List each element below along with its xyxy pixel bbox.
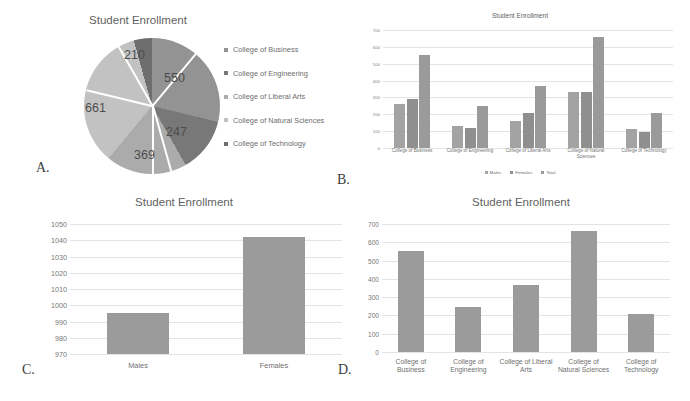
y-axis-tick-label: 1000 [51,301,67,310]
gridline [70,224,342,225]
y-axis-tick-label: 1050 [51,220,67,229]
panel-d-bar-chart: Student Enrollment 010020030040050060070… [352,196,690,392]
x-axis-tick-label: College ofTechnology [612,352,670,375]
bar-females [523,113,534,148]
x-axis-tick-label: College of Engineering [441,148,499,154]
y-axis-tick-label: 600 [373,44,380,49]
bar-college-3 [571,231,597,352]
plot-area-d: 0100200300400500600700College ofBusiness… [382,224,670,352]
pie-value-business: 550 [164,71,185,85]
y-axis-tick-label: 400 [368,275,379,282]
bar-females [465,128,476,148]
panel-letter-d: D. [338,362,352,378]
y-axis-tick-label: 500 [368,257,379,264]
x-axis-tick-label: College of NaturalSciences [557,148,615,159]
legend-label: Females [515,170,532,175]
bar-college-0 [398,251,424,352]
bar-males [107,313,169,354]
pie-value-engineering: 247 [166,125,187,139]
bar-males [452,126,463,148]
y-axis-tick-label: 0 [375,349,379,356]
legend-swatch-icon [224,118,228,122]
gridline [382,261,670,262]
pie-value-natural-sciences: 661 [85,101,106,115]
legend-label: College of Natural Sciences [233,116,324,125]
y-axis-tick-label: 0 [378,146,380,151]
legend-swatch-icon [541,171,544,174]
legend-label: College of Technology [233,139,306,148]
legend-item-natural-sciences[interactable]: College of Natural Sciences [224,109,350,133]
panel-letter-a: A. [36,160,50,176]
legend-item-males[interactable]: Males [485,170,502,175]
x-axis-tick-label: College of Liberal Arts [499,148,557,154]
bar-college-2 [513,285,539,352]
y-axis-tick-label: 100 [368,330,379,337]
x-axis-tick-label: Males [70,354,206,370]
legend-item-liberal-arts[interactable]: College of Liberal Arts [224,85,350,109]
y-axis-tick-label: 600 [368,239,379,246]
grouped-bar-legend: Males Females Total [355,170,685,175]
legend-swatch-icon [224,95,228,99]
y-axis-tick-label: 200 [368,312,379,319]
gridline [382,279,670,280]
legend-item-engineering[interactable]: College of Engineering [224,62,350,86]
y-axis-tick-label: 980 [55,333,67,342]
legend-swatch-icon [510,171,513,174]
y-axis-tick-label: 500 [373,61,380,66]
y-axis-tick-label: 200 [373,112,380,117]
panel-b-grouped-bar-chart: Student Enrollment 010020030040050060070… [355,8,685,188]
pie-separator [152,106,154,174]
legend-item-total[interactable]: Total [541,170,555,175]
y-axis-tick-label: 1010 [51,285,67,294]
gridline [382,224,670,225]
y-axis-tick-label: 1020 [51,268,67,277]
bar-total [419,55,430,148]
pie-value-technology: 210 [124,48,145,62]
panel-letter-c: C. [22,362,35,378]
legend-label: Total [546,170,555,175]
plot-area-b: 0100200300400500600700College of Busines… [383,30,673,148]
legend-swatch-icon [224,142,228,146]
bar-college-1 [455,307,481,352]
y-axis-tick-label: 300 [373,95,380,100]
panel-d-title: Student Enrollment [352,196,690,208]
bar-total [593,37,604,148]
gridline [383,30,673,31]
y-axis-tick-label: 990 [55,317,67,326]
bar-males [510,121,521,148]
pie-legend: College of Business College of Engineeri… [224,38,350,156]
panel-a-title: Student Enrollment [0,14,350,26]
y-axis-tick-label: 100 [373,129,380,134]
panel-c-title: Student Enrollment [18,196,350,208]
x-axis-tick-label: College ofNatural Sciences [555,352,613,375]
x-axis-tick-label: College ofEngineering [440,352,498,375]
bar-males [626,129,637,148]
bar-total [651,113,662,148]
legend-swatch-icon [224,71,228,75]
bar-females [243,237,305,354]
bar-males [568,92,579,148]
panel-a-pie-chart: Student Enrollment 550 247 369 661 210 C… [6,14,350,184]
legend-item-females[interactable]: Females [510,170,532,175]
y-axis-tick-label: 700 [373,28,380,33]
legend-swatch-icon [485,171,488,174]
bar-total [477,106,488,148]
legend-item-business[interactable]: College of Business [224,38,350,62]
y-axis-tick-label: 400 [373,78,380,83]
x-axis-tick-label: College of Technology [615,148,673,154]
bar-total [535,86,546,148]
legend-label: College of Business [233,45,298,54]
bar-females [639,132,650,148]
panel-letter-b: B. [337,172,350,188]
x-axis-tick-label: College of LiberalArts [497,352,555,375]
y-axis-tick-label: 1030 [51,252,67,261]
x-axis-tick-label: College ofBusiness [382,352,440,375]
plot-area-c: 970980990100010101020103010401050MalesFe… [70,224,342,354]
legend-item-technology[interactable]: College of Technology [224,132,350,156]
y-axis-tick-label: 300 [368,294,379,301]
y-axis-tick-label: 970 [55,350,67,359]
panel-c-bar-chart: Student Enrollment 970980990100010101020… [18,196,350,392]
legend-label: College of Liberal Arts [233,92,305,101]
bar-college-4 [628,314,654,352]
legend-swatch-icon [224,48,228,52]
